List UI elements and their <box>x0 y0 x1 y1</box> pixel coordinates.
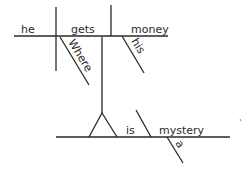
stray-mark <box>240 119 241 121</box>
word-gets: gets <box>71 23 95 36</box>
word-mystery: mystery <box>159 124 205 137</box>
word-he: he <box>21 23 35 36</box>
word-money: money <box>131 23 169 36</box>
pedestal <box>89 113 117 137</box>
predicate-slash <box>136 110 151 137</box>
sentence-diagram: he gets money Where his is mystery a <box>0 0 245 174</box>
word-is: is <box>126 124 135 137</box>
word-his: his <box>128 36 147 56</box>
word-where: Where <box>65 37 95 74</box>
